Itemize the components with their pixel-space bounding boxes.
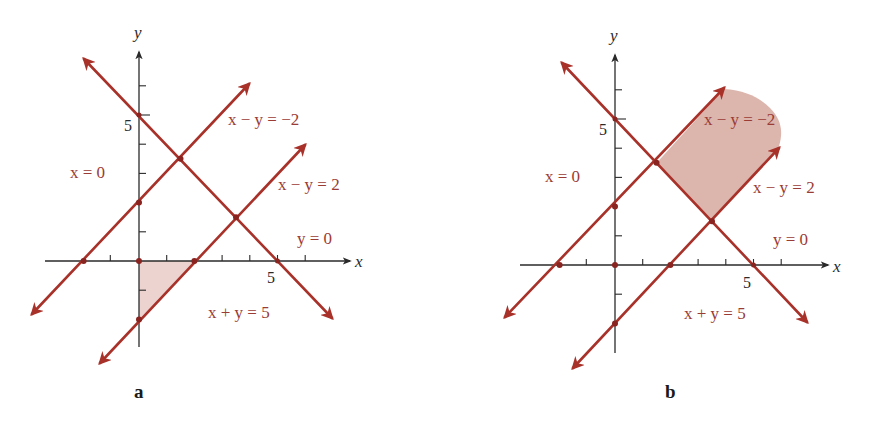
panel-caption-a: a: [134, 381, 144, 402]
label-x-minus-y-eq-2-a: x − y = 2: [278, 175, 340, 194]
line-x-minus-y-eq-2-a: [100, 145, 305, 363]
x-tick-label-5-a: 5: [267, 269, 275, 286]
panel-caption-b: b: [665, 381, 676, 402]
figure-canvas: x y 5 5 x − y = −2 x = 0 x − y = 2 y = 0…: [0, 0, 892, 421]
label-x-eq-0-a: x = 0: [70, 163, 105, 182]
x-axis-label-a: x: [354, 252, 363, 271]
label-x-minus-y-eq-2-b: x − y = 2: [753, 178, 815, 197]
label-x-minus-y-eq-neg2-a: x − y = −2: [228, 110, 299, 129]
y-axis-label-a: y: [132, 23, 142, 42]
y-tick-label-5-b: 5: [599, 121, 607, 138]
label-x-plus-y-eq-5-a: x + y = 5: [208, 303, 270, 322]
y-tick-label-5-a: 5: [124, 117, 132, 134]
panel-b: x y 5 5 x − y = −2 x = 0 x − y = 2 y = 0…: [505, 26, 841, 402]
panel-a: x y 5 5 x − y = −2 x = 0 x − y = 2 y = 0…: [32, 23, 363, 402]
label-y-eq-0-b: y = 0: [773, 230, 808, 249]
label-x-minus-y-eq-neg2-b: x − y = −2: [704, 110, 775, 129]
y-axis-label-b: y: [608, 26, 618, 45]
x-axis-label-b: x: [832, 257, 841, 276]
x-tick-label-5-b: 5: [743, 274, 751, 291]
marked-points-a: [81, 113, 280, 323]
label-y-eq-0-a: y = 0: [297, 229, 332, 248]
feasible-region-b: [657, 89, 782, 221]
label-x-plus-y-eq-5-b: x + y = 5: [684, 304, 746, 323]
label-x-eq-0-b: x = 0: [545, 167, 580, 186]
